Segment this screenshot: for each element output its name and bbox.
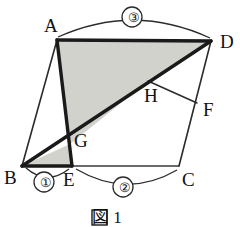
vertex-label-H: H — [144, 86, 158, 105]
vertex-label-C: C — [182, 170, 195, 189]
figure-caption: 図 1 — [92, 209, 122, 226]
vertex-label-D: D — [220, 32, 234, 51]
arc-label-1: ① — [40, 176, 52, 189]
vertex-label-A: A — [44, 16, 58, 35]
arc-label-3: ③ — [128, 11, 140, 24]
segment-AD — [57, 40, 211, 41]
arc-label-2: ② — [119, 181, 131, 194]
vertex-label-E: E — [63, 170, 75, 189]
vertex-label-F: F — [203, 100, 214, 119]
vertex-label-G: G — [74, 131, 88, 150]
figure-container: A B C D E F G H ① ② ③ 図 1 — [0, 0, 240, 227]
vertex-label-B: B — [4, 168, 17, 187]
